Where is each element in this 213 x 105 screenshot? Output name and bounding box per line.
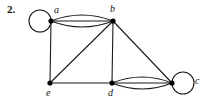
edge-a-e [50,21,51,83]
self-loop-a [29,10,51,32]
edge-a-b-1 [51,15,113,21]
graph-figure: 2. abcde [0,0,213,105]
edge-layer [50,15,172,89]
vertex-label-b: b [110,4,115,14]
self-loop-c [172,72,194,94]
vertex-layer [47,18,174,85]
vertex-label-d: d [108,88,113,98]
vertex-label-a: a [54,5,59,15]
vertex-d [109,80,114,85]
vertex-e [47,80,52,85]
edge-b-d [112,21,113,83]
edge-b-e [50,21,113,83]
vertex-label-e: e [46,88,50,98]
vertex-label-c: c [195,76,199,86]
edge-d-c-1 [112,77,172,83]
edge-a-b-3 [51,21,113,27]
vertex-c [169,80,174,85]
graph-canvas [0,0,213,105]
edge-b-c [113,21,172,83]
edge-d-c-3 [112,83,172,89]
vertex-a [48,18,53,23]
vertex-b [110,18,115,23]
